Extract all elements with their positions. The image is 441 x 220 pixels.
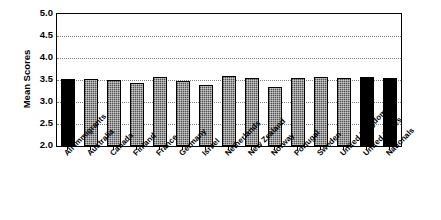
y-axis-tick-label: 4.0 (27, 52, 53, 62)
y-axis-tick-label: 4.5 (27, 30, 53, 40)
y-axis-tick-labels: 5.04.54.03.53.02.52.0 (27, 0, 53, 220)
y-axis-tick-label: 2.0 (27, 140, 53, 150)
y-axis-tick-label: 3.0 (27, 96, 53, 106)
bar (61, 79, 75, 146)
y-axis-tick-label: 2.5 (27, 118, 53, 128)
y-axis-tick-label: 3.5 (27, 74, 53, 84)
y-axis-tick-label: 5.0 (27, 8, 53, 18)
gridline (57, 58, 401, 59)
bar (176, 81, 190, 146)
bar-chart-figure: Mean Scores 5.04.54.03.53.02.52.0 All Im… (0, 0, 441, 220)
bar (222, 76, 236, 146)
gridline (57, 36, 401, 37)
